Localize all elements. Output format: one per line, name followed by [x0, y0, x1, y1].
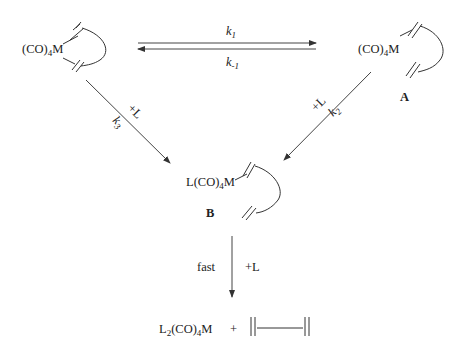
complex-b-label: B	[206, 206, 214, 220]
rate-k-1: k-1	[226, 55, 239, 71]
complex-b: L(CO)4M B	[186, 162, 280, 220]
complex-b-formula: L(CO)4M	[186, 175, 235, 191]
k2-reagent: +L	[308, 94, 328, 114]
arrow-k3: +L k3	[86, 80, 170, 163]
reaction-scheme: (CO)4M k1 k-1 (CO)4M A +L k3 +L k	[0, 0, 461, 355]
rate-k3: k3	[108, 113, 127, 132]
arrow-fast: fast +L	[197, 236, 260, 297]
final-reagent: +L	[245, 260, 260, 274]
diene-product	[251, 317, 309, 336]
products: L2(CO)4M +	[159, 317, 309, 338]
equilibrium-arrows: k1 k-1	[138, 24, 316, 71]
rate-k1: k1	[226, 24, 236, 40]
complex-a-formula: (CO)4M	[358, 42, 399, 58]
complex-start-formula: (CO)4M	[22, 42, 63, 58]
rate-k2: k2	[325, 102, 344, 121]
arrow-k2: +L k2	[284, 72, 371, 160]
complex-a-label: A	[400, 90, 409, 104]
product-formula: L2(CO)4M	[159, 322, 212, 338]
complex-start: (CO)4M	[22, 22, 106, 72]
complex-a: (CO)4M A	[358, 22, 443, 104]
plus-sign: +	[230, 322, 237, 336]
fast-label: fast	[197, 260, 216, 274]
k3-reagent: +L	[125, 101, 145, 121]
